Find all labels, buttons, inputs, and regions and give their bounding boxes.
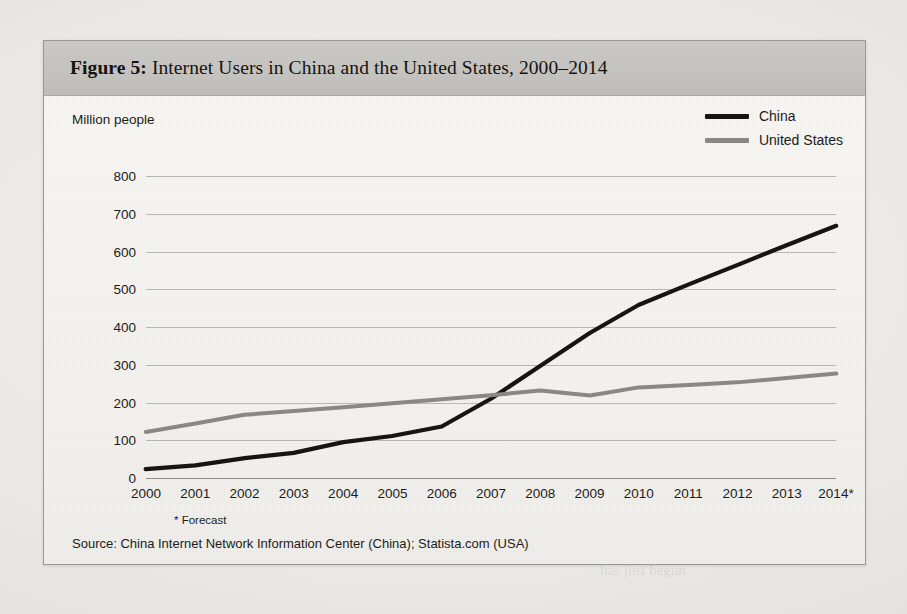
figure-header-band: Figure 5: Internet Users in China and th…	[44, 41, 865, 96]
y-axis-tick-labels: 8007006005004003002001000	[72, 176, 136, 478]
legend-label-china: China	[759, 108, 796, 124]
y-axis-tick-label: 500	[113, 282, 136, 297]
figure-number-label: Figure 5:	[70, 57, 147, 78]
series-line-china	[146, 226, 837, 469]
y-axis-title: Million people	[72, 112, 155, 127]
x-axis-tick-label: 2006	[427, 486, 457, 501]
x-axis-tick-label: 2008	[525, 486, 555, 501]
figure-5-container: Figure 5: Internet Users in China and th…	[43, 40, 866, 565]
x-axis-tick-label: 2000	[131, 486, 161, 501]
legend-item-united-states: United States	[705, 132, 843, 148]
y-axis-tick-label: 800	[113, 169, 136, 184]
legend-item-china: China	[705, 108, 843, 124]
x-axis-tick-label: 2002	[230, 486, 260, 501]
figure-title-text: Internet Users in China and the United S…	[152, 57, 608, 78]
y-axis-tick-label: 400	[113, 320, 136, 335]
x-axis-tick-label: 2012	[722, 486, 752, 501]
x-axis-tick-label: 2014*	[818, 486, 853, 501]
x-axis-tick-label: 2005	[377, 486, 407, 501]
x-axis-tick-label: 2011	[674, 486, 703, 501]
x-axis-tick-label: 2001	[180, 486, 210, 501]
series-svg	[146, 176, 836, 478]
series-line-united-states	[146, 374, 837, 432]
chart-footnote: * Forecast	[174, 514, 226, 526]
x-axis-line	[146, 478, 836, 479]
legend-swatch-united-states	[705, 138, 749, 143]
legend-swatch-china	[705, 114, 749, 119]
legend-label-united-states: United States	[759, 132, 843, 148]
x-axis-tick-label: 2013	[772, 486, 802, 501]
chart-legend: China United States	[705, 108, 843, 148]
x-axis-tick-labels: 2000200120022003200420052006200720082009…	[146, 486, 836, 508]
x-axis-tick-label: 2007	[476, 486, 506, 501]
y-axis-tick-label: 600	[113, 244, 136, 259]
plot-series-lines	[146, 176, 836, 478]
x-axis-tick-label: 2010	[624, 486, 654, 501]
y-axis-tick-label: 0	[128, 471, 136, 486]
x-axis-tick-label: 2003	[279, 486, 309, 501]
figure-title: Figure 5: Internet Users in China and th…	[70, 57, 608, 79]
x-axis-tick-label: 2009	[575, 486, 605, 501]
y-axis-tick-label: 200	[113, 395, 136, 410]
y-axis-tick-label: 700	[113, 206, 136, 221]
x-axis-tick-label: 2004	[328, 486, 358, 501]
chart-area: Million people China United States 80070…	[44, 96, 865, 564]
chart-source: Source: China Internet Network Informati…	[72, 536, 529, 551]
y-axis-tick-label: 100	[113, 433, 136, 448]
y-axis-tick-label: 300	[113, 357, 136, 372]
